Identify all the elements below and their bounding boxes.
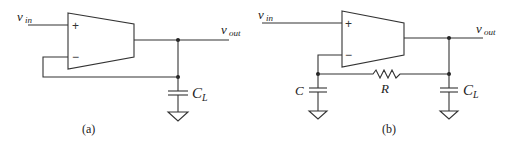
opamp-a-plus-sign: + <box>72 19 79 33</box>
feedback-wire-a <box>43 57 178 77</box>
vout-label-a: v <box>221 22 227 37</box>
vout-label-b: v <box>476 21 482 36</box>
caption-b: (b) <box>382 122 396 136</box>
vout-sub-a: out <box>229 28 241 38</box>
r-label-b: R <box>380 81 389 96</box>
vout-sub-b: out <box>484 27 496 37</box>
vin-sub-b: in <box>266 13 274 23</box>
ground-icon-a <box>168 112 188 121</box>
circuit-figure: + − v in v out C L <box>0 0 509 146</box>
vin-label-a: v <box>17 9 23 24</box>
cl-sub-b: L <box>472 89 479 100</box>
cl-sub-a: L <box>201 92 208 103</box>
caption-a: (a) <box>82 122 95 136</box>
ground-icon-b-cl <box>440 111 458 119</box>
panel-a: + − v in v out C L <box>17 9 241 136</box>
opamp-a-minus-sign: − <box>72 50 79 64</box>
vin-sub-a: in <box>25 15 33 25</box>
resistor-r-b <box>318 70 449 78</box>
panel-b: + − v in v out R C <box>258 7 496 136</box>
opamp-b-plus-sign: + <box>345 17 352 31</box>
opamp-b-minus-sign: − <box>345 48 352 62</box>
minus-wire-b <box>318 55 342 74</box>
vin-label-b: v <box>258 7 264 22</box>
c-label-b: C <box>295 83 304 98</box>
ground-icon-b-c <box>309 111 327 119</box>
